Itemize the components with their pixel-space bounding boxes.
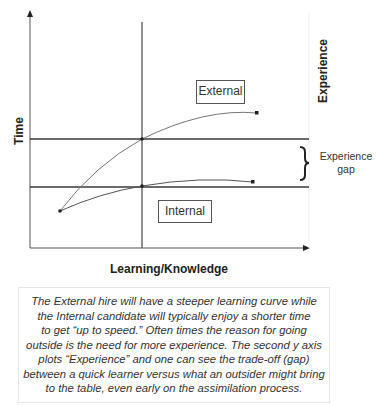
caption-line: between a quick learner versus what an o… (23, 367, 325, 382)
external-label: External (198, 84, 242, 98)
gap-label-line-1: Experience (316, 150, 376, 163)
learning-curve-diagram: External Internal Time Experience Learni… (0, 0, 377, 280)
external-label-box: External (196, 80, 245, 104)
gap-label-line-2: gap (316, 163, 376, 176)
external-mid-point (140, 137, 144, 141)
y-axis-right-title: Experience (316, 36, 330, 106)
caption-line: The External hire will have a steeper le… (23, 294, 325, 309)
caption-line: outside is the need for more experience.… (23, 338, 325, 353)
external-curve (60, 112, 257, 211)
start-point (58, 209, 62, 213)
y-axis-left-title: Time (12, 116, 26, 146)
caption-line: plots “Experience” and one can see the t… (23, 352, 325, 367)
caption-box: The External hire will have a steeper le… (18, 287, 330, 403)
x-axis-title: Learning/Knowledge (110, 262, 220, 276)
internal-label-box: Internal (158, 200, 212, 223)
caption-line: to the table, even early on the assimila… (23, 381, 325, 396)
y-axis-arrow-icon (27, 10, 33, 17)
experience-gap-label: Experience gap (316, 150, 376, 176)
external-end-point (255, 111, 259, 115)
internal-label: Internal (165, 204, 205, 218)
internal-mid-point (140, 184, 144, 188)
caption-line: to get “up to speed.” Often times the re… (23, 323, 325, 338)
internal-curve (60, 180, 253, 211)
internal-end-point (251, 180, 255, 184)
curly-brace-icon (300, 147, 309, 180)
caption-line: the Internal candidate will typically en… (23, 309, 325, 324)
